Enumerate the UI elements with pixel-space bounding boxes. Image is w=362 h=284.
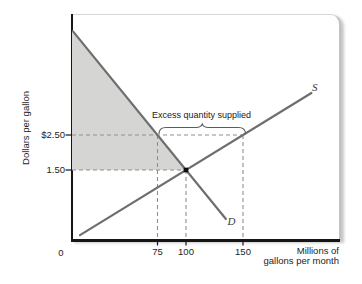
y-axis-title: Dollars per gallon xyxy=(20,91,31,165)
x-axis-title: Millions of gallons per month xyxy=(219,246,339,267)
demand-curve-label: D xyxy=(228,215,236,227)
x-tick-label-0: 0 xyxy=(51,247,71,258)
y-tick-label-1-50: 1.50 xyxy=(25,164,65,175)
x-axis-title-line2: gallons per month xyxy=(219,256,339,267)
x-tick-label-75: 75 xyxy=(145,246,170,257)
supply-demand-figure: Dollars per gallon $2.50 1.50 0 75 100 1… xyxy=(0,0,362,284)
equilibrium-point xyxy=(184,168,189,173)
x-tick-label-100: 100 xyxy=(174,246,199,257)
y-tick-label-2-50: $2.50 xyxy=(25,129,65,140)
supply-demand-chart xyxy=(0,0,362,284)
supply-curve-label: S xyxy=(312,81,318,93)
excess-quantity-annotation: Excess quantity supplied xyxy=(131,110,272,121)
excess-quantity-brace xyxy=(159,124,246,134)
